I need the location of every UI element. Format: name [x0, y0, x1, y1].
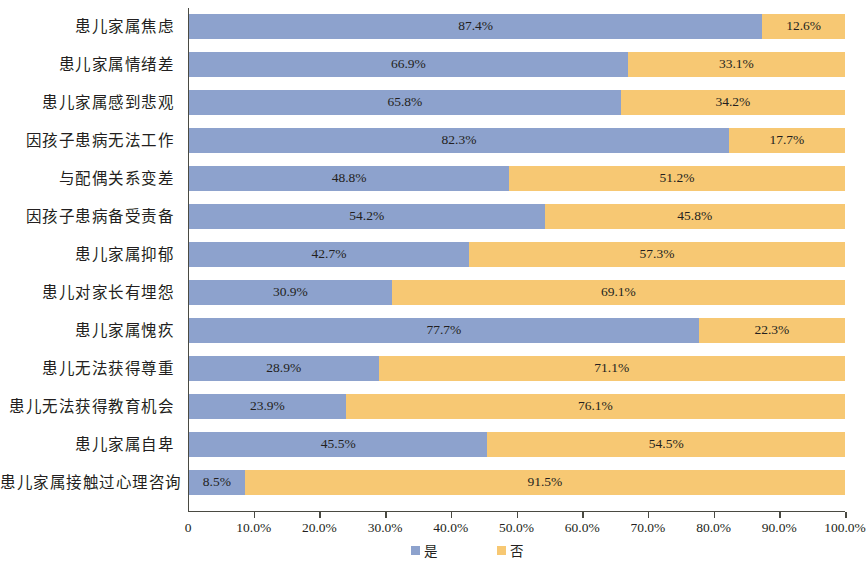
bar-value-label: 12.6%	[786, 19, 821, 33]
bar-row: 23.9%76.1%	[189, 388, 845, 426]
bar-segment-yes[interactable]: 30.9%	[189, 280, 392, 305]
bar-track: 8.5%91.5%	[189, 470, 845, 495]
bar-track: 42.7%57.3%	[189, 242, 845, 267]
bar-segment-yes[interactable]: 54.2%	[189, 204, 545, 229]
plot-area: 87.4%12.6%66.9%33.1%65.8%34.2%82.3%17.7%…	[188, 8, 845, 512]
bar-row: 65.8%34.2%	[189, 84, 845, 122]
bar-segment-no[interactable]: 33.1%	[628, 52, 845, 77]
x-axis-tick-labels: 010.0%20.0%30.0%40.0%50.0%60.0%70.0%80.0…	[188, 520, 845, 540]
bar-segment-yes[interactable]: 65.8%	[189, 90, 621, 115]
x-axis-tick	[385, 512, 387, 518]
bar-track: 82.3%17.7%	[189, 128, 845, 153]
bar-segment-no[interactable]: 91.5%	[245, 470, 845, 495]
bar-value-label: 8.5%	[203, 475, 231, 489]
x-axis-tick	[648, 512, 650, 518]
x-axis-tick-label: 20.0%	[302, 520, 337, 536]
bar-segment-yes[interactable]: 77.7%	[189, 318, 699, 343]
category-label: 因孩子患病备受责备	[0, 198, 182, 236]
bar-segment-yes[interactable]: 48.8%	[189, 166, 509, 191]
category-label: 患儿家属愧疚	[0, 312, 182, 350]
legend-item[interactable]: 是	[411, 540, 437, 560]
bar-segment-no[interactable]: 71.1%	[379, 356, 845, 381]
x-axis-tick-label: 90.0%	[762, 520, 797, 536]
x-axis-tick-label: 0	[185, 520, 192, 536]
category-label: 患儿家属感到悲观	[0, 84, 182, 122]
bar-segment-no[interactable]: 69.1%	[392, 280, 845, 305]
x-axis-tick-label: 40.0%	[433, 520, 468, 536]
bar-value-label: 57.3%	[640, 247, 675, 261]
category-label: 与配偶关系变差	[0, 160, 182, 198]
x-axis-tick-label: 60.0%	[565, 520, 600, 536]
x-axis-tick	[714, 512, 716, 518]
bar-segment-yes[interactable]: 66.9%	[189, 52, 628, 77]
bar-segment-no[interactable]: 57.3%	[469, 242, 845, 267]
category-label: 患儿家属自卑	[0, 426, 182, 464]
category-label: 因孩子患病无法工作	[0, 122, 182, 160]
bar-value-label: 69.1%	[601, 285, 636, 299]
bar-value-label: 51.2%	[660, 171, 695, 185]
bar-value-label: 23.9%	[250, 399, 285, 413]
category-label: 患儿无法获得尊重	[0, 350, 182, 388]
category-label: 患儿对家长有埋怨	[0, 274, 182, 312]
x-axis-tick	[254, 512, 256, 518]
bar-track: 48.8%51.2%	[189, 166, 845, 191]
bar-row: 28.9%71.1%	[189, 350, 845, 388]
category-label: 患儿家属接触过心理咨询	[0, 464, 182, 502]
bar-row: 54.2%45.8%	[189, 198, 845, 236]
legend-item[interactable]: 否	[497, 540, 523, 560]
bar-value-label: 82.3%	[442, 133, 477, 147]
bar-row: 66.9%33.1%	[189, 46, 845, 84]
bar-value-label: 54.2%	[349, 209, 384, 223]
bar-row: 77.7%22.3%	[189, 312, 845, 350]
bar-value-label: 76.1%	[578, 399, 613, 413]
bar-track: 54.2%45.8%	[189, 204, 845, 229]
bar-row: 45.5%54.5%	[189, 426, 845, 464]
bar-segment-no[interactable]: 76.1%	[346, 394, 845, 419]
bar-segment-no[interactable]: 51.2%	[509, 166, 845, 191]
bar-segment-no[interactable]: 17.7%	[729, 128, 845, 153]
bar-segment-yes[interactable]: 8.5%	[189, 470, 245, 495]
bar-value-label: 33.1%	[719, 57, 754, 71]
x-axis-tick	[779, 512, 781, 518]
bar-segment-yes[interactable]: 45.5%	[189, 432, 487, 457]
bar-value-label: 77.7%	[426, 323, 461, 337]
bar-segment-yes[interactable]: 28.9%	[189, 356, 379, 381]
bar-track: 66.9%33.1%	[189, 52, 845, 77]
bar-value-label: 28.9%	[266, 361, 301, 375]
x-axis-tick-label: 100.0%	[824, 520, 866, 536]
legend-label: 是	[424, 540, 437, 560]
x-axis-tick-label: 30.0%	[368, 520, 403, 536]
bar-row: 48.8%51.2%	[189, 160, 845, 198]
bar-value-label: 87.4%	[458, 19, 493, 33]
x-axis-ticks	[188, 512, 845, 520]
bar-segment-no[interactable]: 54.5%	[487, 432, 845, 457]
bar-value-label: 48.8%	[332, 171, 367, 185]
bar-value-label: 30.9%	[273, 285, 308, 299]
category-label: 患儿无法获得教育机会	[0, 388, 182, 426]
bar-value-label: 42.7%	[312, 247, 347, 261]
bar-segment-no[interactable]: 12.6%	[762, 14, 845, 39]
bar-segment-yes[interactable]: 23.9%	[189, 394, 346, 419]
bar-row: 8.5%91.5%	[189, 464, 845, 502]
bar-value-label: 45.8%	[677, 209, 712, 223]
bar-row: 87.4%12.6%	[189, 8, 845, 46]
category-label: 患儿家属抑郁	[0, 236, 182, 274]
bar-value-label: 91.5%	[527, 475, 562, 489]
bar-value-label: 54.5%	[649, 437, 684, 451]
x-axis-tick	[517, 512, 519, 518]
x-axis-tick-label: 10.0%	[236, 520, 271, 536]
bar-segment-yes[interactable]: 82.3%	[189, 128, 729, 153]
bar-segment-no[interactable]: 34.2%	[621, 90, 845, 115]
category-axis-labels: 患儿家属焦虑患儿家属情绪差患儿家属感到悲观因孩子患病无法工作与配偶关系变差因孩子…	[0, 8, 182, 502]
x-axis-tick-label: 80.0%	[696, 520, 731, 536]
x-axis-tick	[451, 512, 453, 518]
bar-segment-no[interactable]: 45.8%	[545, 204, 845, 229]
bar-segment-yes[interactable]: 87.4%	[189, 14, 762, 39]
x-axis-tick-label: 70.0%	[630, 520, 665, 536]
bar-segment-yes[interactable]: 42.7%	[189, 242, 469, 267]
x-axis-tick	[845, 512, 847, 518]
bar-segment-no[interactable]: 22.3%	[699, 318, 845, 343]
bar-value-label: 22.3%	[754, 323, 789, 337]
chart-legend: 是否	[188, 540, 845, 560]
